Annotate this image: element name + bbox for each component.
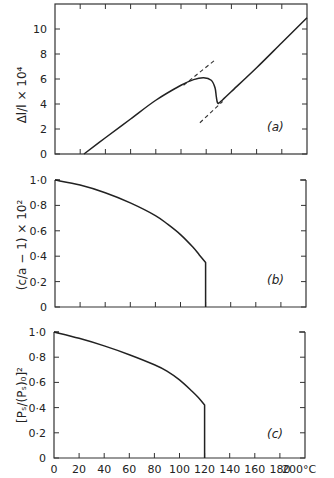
x-tick-label: 80 <box>147 463 161 476</box>
y-tick-label: 1·0 <box>30 174 48 187</box>
y-tick-label: 0·4 <box>30 250 48 263</box>
tangent-dashed-line <box>200 102 223 123</box>
panel-label-a: (a) <box>267 120 284 134</box>
x-tick-label: 120 <box>194 463 215 476</box>
y-label-a-text: Δl/l × 10⁴ <box>15 66 29 123</box>
x-tick-label: 40 <box>97 463 111 476</box>
x-tick-label: 160 <box>244 463 265 476</box>
chart-panel-a: 0246810 <box>33 4 307 161</box>
chart-panel-c: 00·20·40·60·81·0020406080100120140160180… <box>29 326 317 476</box>
y-tick-label: 0·2 <box>30 276 48 289</box>
axes-frame <box>55 180 306 307</box>
y-tick-label: 0·6 <box>30 225 48 238</box>
y-tick-label: 8 <box>40 48 47 61</box>
y-tick-label: 0·6 <box>29 376 47 389</box>
x-tick-label: 0 <box>51 463 58 476</box>
y-tick-label: 0·8 <box>29 351 47 364</box>
y-label-b-text: (c/a − 1) × 10² <box>15 200 29 291</box>
panel-label-b: (b) <box>267 273 284 287</box>
panel-label-c: (c) <box>267 427 283 441</box>
x-tick-label: 20 <box>72 463 86 476</box>
y-tick-label: 0 <box>40 301 47 314</box>
y-tick-label: 1·0 <box>29 326 47 339</box>
x-tick-label: 60 <box>122 463 136 476</box>
y-tick-label: 6 <box>40 73 47 86</box>
y-axis-label-a: Δl/l × 10⁴ <box>15 66 29 123</box>
y-tick-label: 4 <box>40 98 47 111</box>
figure: 0246810 00·20·40·60·81·0 00·20·40·60·81·… <box>0 0 334 478</box>
y-tick-label: 0 <box>39 452 46 465</box>
data-curve <box>55 180 206 307</box>
y-label-c-text: [Pₛ/(Pₛ)₀]² <box>15 367 29 423</box>
y-tick-label: 2 <box>40 123 47 136</box>
y-axis-label-c: [Pₛ/(Pₛ)₀]² <box>15 367 29 423</box>
y-axis-label-b: (c/a − 1) × 10² <box>15 200 29 291</box>
data-curve <box>54 332 205 458</box>
y-tick-label: 0·4 <box>29 402 47 415</box>
chart-panel-b: 00·20·40·60·81·0 <box>30 174 307 314</box>
y-tick-label: 10 <box>33 23 47 36</box>
x-tick-label: 200°C <box>282 463 316 476</box>
y-tick-label: 0 <box>40 148 47 161</box>
x-tick-label: 140 <box>219 463 240 476</box>
y-tick-label: 0·8 <box>30 199 48 212</box>
y-tick-label: 0·2 <box>29 427 47 440</box>
x-tick-label: 100 <box>169 463 190 476</box>
